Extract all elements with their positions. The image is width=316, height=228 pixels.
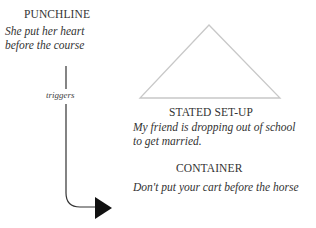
connector-label: triggers: [44, 90, 77, 100]
punchline-heading: PUNCHLINE: [24, 8, 90, 20]
arrowhead-icon: [95, 197, 112, 219]
connector-line-bottom: [66, 104, 97, 207]
stated-setup-text-line1: My friend is dropping out of school: [133, 121, 295, 135]
punchline-text-line1: She put her heart: [5, 25, 85, 39]
stated-setup-heading: STATED SET-UP: [169, 106, 253, 118]
triangle-shape: [140, 25, 280, 98]
container-heading: CONTAINER: [176, 162, 242, 174]
stated-setup-text-line2: to get married.: [133, 135, 202, 149]
container-text-line1: Don't put your cart before the horse: [133, 181, 299, 195]
punchline-text-line2: before the course: [5, 39, 84, 53]
